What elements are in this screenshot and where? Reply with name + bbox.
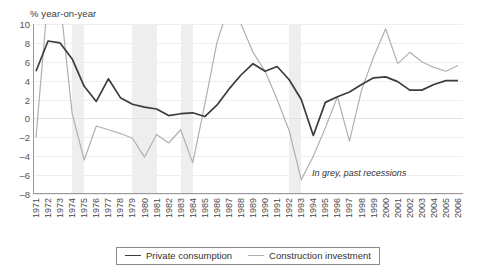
x-tick-label: 1971 [31,198,41,218]
x-tick-label: 1997 [344,198,354,218]
x-tick-label: 2004 [429,198,439,218]
y-tick-label: 0 [25,113,30,124]
x-tick-label: 1985 [200,198,210,218]
y-tick-label: 8 [25,37,30,48]
x-tick-label: 1982 [164,198,174,218]
legend-item-private-consumption: Private consumption [125,250,232,261]
x-tick-label: 1979 [127,198,137,218]
x-tick-label: 1984 [188,198,198,218]
x-tick-label: 2001 [393,198,403,218]
x-tick-label: 1989 [248,198,258,218]
x-tick-label: 1972 [43,198,53,218]
x-tick-label: 1977 [103,198,113,218]
x-tick-label: 2005 [441,198,451,218]
x-tick-label: 1973 [55,198,65,218]
legend-item-construction-investment: Construction investment [248,250,371,261]
x-tick-label: 1995 [320,198,330,218]
x-tick-label: 2000 [381,198,391,218]
chart-legend: Private consumption Construction investm… [116,247,380,265]
x-tick-label: 1986 [212,198,222,218]
y-tick-label: –8 [19,189,30,200]
x-tick-label: 1987 [224,198,234,218]
chart-container: % year-on-year 1086420–2–4–6–8 197119721… [0,0,478,272]
gridline [33,194,463,195]
x-tick-label: 2002 [405,198,415,218]
legend-line-icon [248,255,264,256]
x-tick-label: 1978 [115,198,125,218]
y-tick-label: –2 [19,132,30,143]
y-axis-title: % year-on-year [30,8,96,19]
x-tick-label: 1974 [67,198,77,218]
x-tick-label: 2003 [417,198,427,218]
x-tick-label: 1999 [369,198,379,218]
x-tick-label: 1981 [152,198,162,218]
y-tick-label: 4 [25,75,30,86]
x-tick-label: 1993 [296,198,306,218]
x-tick-label: 1998 [357,198,367,218]
legend-label: Private consumption [146,250,232,261]
x-tick-label: 1994 [308,198,318,218]
y-tick-label: –6 [19,170,30,181]
x-tick-label: 1983 [176,198,186,218]
x-tick-label: 1988 [236,198,246,218]
x-tick-label: 1975 [79,198,89,218]
y-tick-label: 2 [25,94,30,105]
y-axis-ticks: 1086420–2–4–6–8 [0,24,30,194]
recession-annotation: In grey, past recessions [312,168,406,178]
y-tick-label: 6 [25,56,30,67]
y-tick-label: 10 [19,19,30,30]
x-tick-label: 2006 [453,198,463,218]
y-tick-label: –4 [19,151,30,162]
legend-line-icon [125,255,141,256]
x-tick-label: 1992 [284,198,294,218]
x-tick-label: 1990 [260,198,270,218]
x-tick-label: 1976 [91,198,101,218]
x-tick-label: 1996 [332,198,342,218]
legend-label: Construction investment [269,250,371,261]
x-tick-label: 1980 [140,198,150,218]
series-line [36,0,458,180]
x-tick-label: 1991 [272,198,282,218]
